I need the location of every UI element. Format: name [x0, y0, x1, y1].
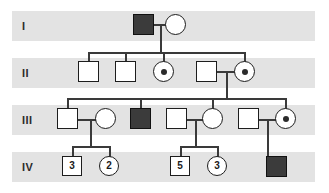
pedigree-symbol-iv-3: 5	[170, 156, 190, 176]
pedigree-symbol-iv-2: 2	[99, 156, 119, 176]
carrier-dot-icon	[242, 69, 248, 75]
pedigree-symbol-iii-5	[202, 108, 223, 129]
pedigree-chart: 3253 IIIIIIIV	[0, 0, 329, 193]
pedigree-symbol-ii-1	[78, 61, 99, 82]
connector-sibship-III	[67, 98, 286, 100]
connector-mating-III-1-2	[78, 119, 96, 121]
sibling-count-label: 2	[100, 157, 118, 175]
pedigree-symbol-iii-1	[57, 108, 78, 129]
generation-label-ii: II	[22, 58, 56, 88]
connector-drop-I-to-II	[160, 24, 162, 52]
pedigree-symbol-i-2	[165, 14, 186, 35]
pedigree-symbol-ii-5	[234, 61, 255, 82]
generation-label-iii: III	[22, 105, 56, 135]
pedigree-symbol-iii-7	[275, 108, 296, 129]
connector-drop-III-a-to-IV	[90, 119, 92, 147]
connector-drop-II-to-III	[226, 71, 228, 99]
pedigree-symbol-ii-3	[153, 61, 174, 82]
pedigree-symbol-iv-4: 3	[207, 156, 227, 176]
sibling-count-label: 3	[63, 157, 81, 175]
generation-band-i	[12, 11, 315, 41]
connector-sibship-II	[88, 52, 244, 54]
pedigree-symbol-iv-1: 3	[62, 156, 82, 176]
connector-drop-III-c-to-IV	[267, 119, 269, 157]
pedigree-symbol-iv-5	[266, 156, 287, 177]
generation-label-i: I	[22, 11, 56, 41]
carrier-dot-icon	[283, 116, 289, 122]
pedigree-symbol-iii-4	[166, 108, 187, 129]
pedigree-symbol-ii-4	[196, 61, 217, 82]
connector-sibship-IV-b	[180, 146, 217, 148]
carrier-dot-icon	[161, 69, 167, 75]
pedigree-symbol-i-1	[133, 14, 154, 35]
connector-drop-III-b-to-IV	[195, 119, 197, 147]
generation-label-iv: IV	[22, 152, 56, 182]
sibling-count-label: 5	[171, 157, 189, 175]
pedigree-symbol-iii-2	[95, 108, 116, 129]
pedigree-symbol-ii-2	[115, 61, 136, 82]
sibling-count-label: 3	[208, 157, 226, 175]
pedigree-symbol-iii-6	[238, 108, 259, 129]
pedigree-symbol-iii-3	[130, 108, 151, 129]
